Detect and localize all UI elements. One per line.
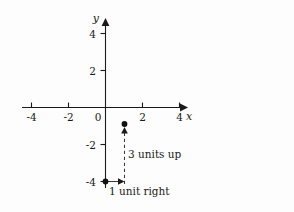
y-tick-label-minus4: -4 <box>86 176 97 188</box>
x-tick-label-minus4: -4 <box>26 111 37 123</box>
horizontal-translation-label: 1 unit right <box>109 185 170 197</box>
x-axis-label: x <box>186 110 193 123</box>
end-point-marker <box>122 121 128 127</box>
vertical-translation-arrowhead <box>121 127 128 134</box>
y-tick-label-minus2: -2 <box>86 139 96 151</box>
x-tick-label-plus2: 2 <box>139 111 146 123</box>
plot-svg: -4 -2 2 4 0 4 2 -2 -4 x y 3 units up 1 u… <box>0 0 294 212</box>
origin-label: 0 <box>95 111 102 123</box>
x-tick-label-minus2: -2 <box>63 111 73 123</box>
y-axis-label: y <box>92 12 100 25</box>
vertical-translation-label: 3 units up <box>128 148 182 160</box>
y-axis-arrowhead <box>102 18 110 26</box>
y-tick-label-plus4: 4 <box>89 28 96 40</box>
coordinate-plane-figure: -4 -2 2 4 0 4 2 -2 -4 x y 3 units up 1 u… <box>0 0 294 212</box>
horizontal-translation-arrowhead <box>118 178 125 185</box>
start-point-marker <box>103 179 109 185</box>
y-tick-label-plus2: 2 <box>89 65 96 77</box>
x-tick-label-plus4: 4 <box>176 111 183 123</box>
